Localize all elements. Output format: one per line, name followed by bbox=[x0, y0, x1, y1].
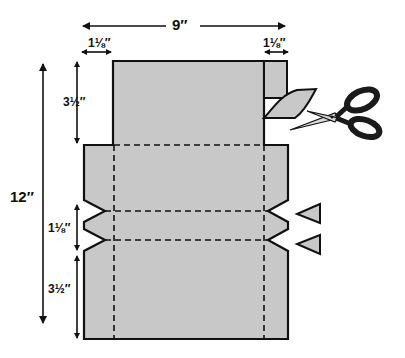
top-section-height-label: 3½″ bbox=[63, 95, 85, 109]
total-height-label: 12″ bbox=[10, 188, 34, 205]
left-margin-label: 1⅛″ bbox=[88, 36, 110, 50]
template-diagram bbox=[0, 0, 405, 358]
paper-template bbox=[84, 61, 316, 339]
triangle-notch-icon bbox=[297, 235, 320, 254]
triangle-notch-icon bbox=[297, 204, 320, 223]
bottom-section-height-label: 3½″ bbox=[48, 282, 70, 296]
notch-height-label: 1⅛″ bbox=[48, 221, 70, 235]
right-margin-label: 1⅛″ bbox=[263, 36, 285, 50]
total-width-label: 9″ bbox=[172, 16, 188, 33]
